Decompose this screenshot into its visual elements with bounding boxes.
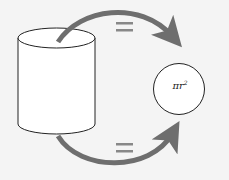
bottom-arrow (58, 134, 172, 163)
diagram: πr2 (0, 0, 229, 180)
circle-area-formula: πr2 (164, 79, 196, 91)
cylinder (18, 28, 95, 134)
equals-sign-bottom (116, 143, 133, 153)
formula-base: πr (172, 80, 183, 91)
formula-exponent: 2 (184, 79, 188, 86)
equals-sign-top (116, 22, 133, 32)
